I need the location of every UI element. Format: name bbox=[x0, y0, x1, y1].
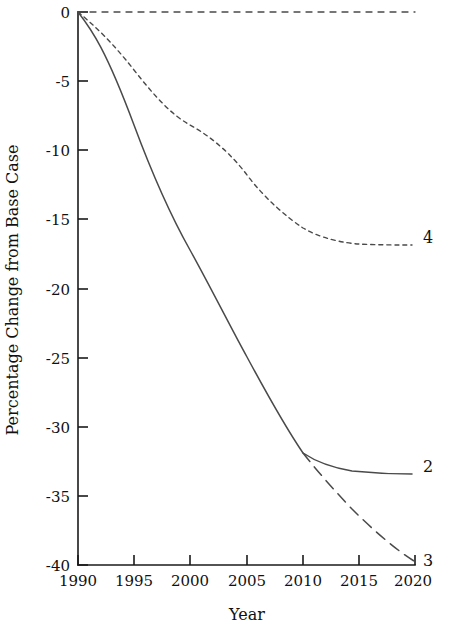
y-axis-title: Percentage Change from Base Case bbox=[3, 145, 22, 436]
series-4-line bbox=[78, 12, 412, 245]
x-axis-title: Year bbox=[228, 605, 265, 624]
x-tick-label-1995: 1995 bbox=[115, 572, 153, 590]
x-tick-labels: 1990 1995 2000 2005 2010 2015 2020 bbox=[59, 572, 432, 590]
series-label-3: 3 bbox=[423, 551, 433, 570]
y-tick-label-m30: -30 bbox=[46, 419, 70, 437]
y-tick-label-m5: -5 bbox=[55, 73, 70, 91]
y-tick-label-m10: -10 bbox=[46, 142, 70, 160]
x-tick-label-1990: 1990 bbox=[59, 572, 97, 590]
y-axis-ticks bbox=[78, 12, 88, 565]
y-tick-label-0: 0 bbox=[60, 4, 70, 22]
series-label-2: 2 bbox=[423, 457, 433, 476]
x-axis-ticks bbox=[78, 555, 415, 565]
series-label-4: 4 bbox=[423, 228, 433, 247]
y-tick-label-m20: -20 bbox=[46, 281, 70, 299]
y-tick-label-m35: -35 bbox=[46, 488, 70, 506]
x-tick-label-2000: 2000 bbox=[171, 572, 209, 590]
x-tick-label-2020: 2020 bbox=[394, 572, 432, 590]
y-tick-labels: 0 -5 -10 -15 -20 -25 -30 -35 -40 bbox=[46, 4, 70, 575]
x-tick-label-2005: 2005 bbox=[228, 572, 266, 590]
line-chart: 0 -5 -10 -15 -20 -25 -30 -35 -40 1990 19… bbox=[0, 0, 449, 631]
chart-figure: 0 -5 -10 -15 -20 -25 -30 -35 -40 1990 19… bbox=[0, 0, 449, 631]
series-2-line bbox=[78, 12, 412, 474]
x-tick-label-2010: 2010 bbox=[284, 572, 322, 590]
series-3-line bbox=[303, 453, 414, 561]
y-tick-label-m15: -15 bbox=[46, 211, 70, 229]
y-tick-label-m25: -25 bbox=[46, 350, 70, 368]
x-tick-label-2015: 2015 bbox=[340, 572, 378, 590]
